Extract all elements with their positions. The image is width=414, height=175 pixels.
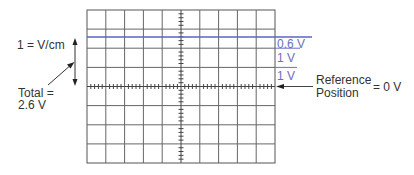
segment-label-1v-lower: 1 V [277,70,295,83]
reference-arrowhead-icon [276,84,284,89]
total-label-line2: 2.6 V [18,99,46,112]
arrow-down-icon [73,79,78,86]
scale-label: 1 = V/cm [17,39,65,52]
segment-label-1v-upper: 1 V [277,52,295,65]
segment-label-0-6v: 0.6 V [277,38,305,51]
reference-label-line2: Position [316,87,359,100]
arrow-up-icon [73,38,78,45]
reference-value: = 0 V [373,81,401,94]
total-pointer-line [48,64,72,85]
